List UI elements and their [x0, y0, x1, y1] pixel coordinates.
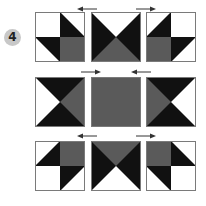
tile-r1-c3 — [146, 12, 196, 62]
arrow-left-icon — [131, 69, 151, 75]
arrow-left-icon — [77, 133, 97, 139]
tile-r3-c1 — [35, 141, 85, 191]
arrow-right-icon — [81, 69, 101, 75]
tile-r2-c1 — [35, 77, 85, 127]
arrow-right-icon — [136, 133, 156, 139]
tile-r3-c3 — [146, 141, 196, 191]
tile-r3-c2 — [91, 141, 141, 191]
tile-r2-c3 — [146, 77, 196, 127]
tile-r2-c2 — [91, 77, 141, 127]
tile-r1-c1 — [35, 12, 85, 62]
step-number-badge: 4 — [4, 29, 21, 46]
tile-r1-c2 — [91, 12, 141, 62]
